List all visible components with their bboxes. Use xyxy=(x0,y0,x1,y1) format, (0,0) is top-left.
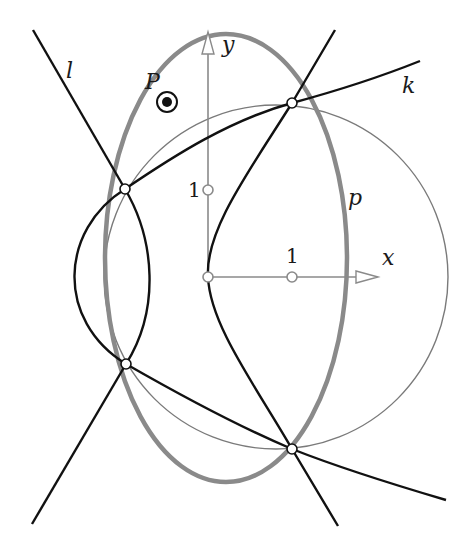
label-y-axis: y xyxy=(221,32,235,57)
x-unit-point xyxy=(287,272,297,282)
hyperbola-left-inner xyxy=(125,189,150,364)
x-axis-arrow-icon xyxy=(356,271,378,283)
label-k: k xyxy=(402,73,415,98)
point-p-inner xyxy=(162,97,172,107)
curve-k xyxy=(125,61,420,189)
intersection-point-lower-left xyxy=(121,359,131,369)
figure: l k p P x y 1 1 xyxy=(0,0,468,549)
ellipse-p xyxy=(105,34,347,482)
y-unit-point xyxy=(203,185,213,195)
label-x-unit: 1 xyxy=(286,244,299,268)
hyperbola-left-branch xyxy=(74,189,126,364)
line-l xyxy=(33,30,125,189)
label-p: p xyxy=(348,185,362,210)
origin-point xyxy=(203,272,213,282)
intersection-point-upper-left xyxy=(120,184,130,194)
label-y-unit: 1 xyxy=(188,178,201,202)
intersection-point-upper-right xyxy=(287,98,297,108)
line-lower-left xyxy=(32,364,126,524)
intersection-point-lower-right xyxy=(287,444,297,454)
curve-k-lower xyxy=(126,364,446,500)
label-P: P xyxy=(144,69,161,94)
label-x-axis: x xyxy=(382,245,395,270)
label-l: l xyxy=(66,58,73,83)
